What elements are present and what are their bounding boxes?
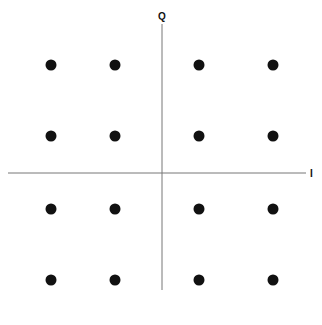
point (46, 131, 57, 142)
point (194, 60, 205, 71)
q-axis-label: Q (158, 11, 166, 22)
point (46, 60, 57, 71)
point (110, 60, 121, 71)
point (194, 275, 205, 286)
point (110, 275, 121, 286)
point (110, 131, 121, 142)
point (110, 204, 121, 215)
point (194, 131, 205, 142)
point (194, 204, 205, 215)
i-axis-label: I (310, 168, 313, 179)
constellation-diagram: Q I (0, 0, 322, 325)
point (268, 275, 279, 286)
point (46, 204, 57, 215)
point (268, 60, 279, 71)
point (268, 131, 279, 142)
point (46, 275, 57, 286)
point (268, 204, 279, 215)
